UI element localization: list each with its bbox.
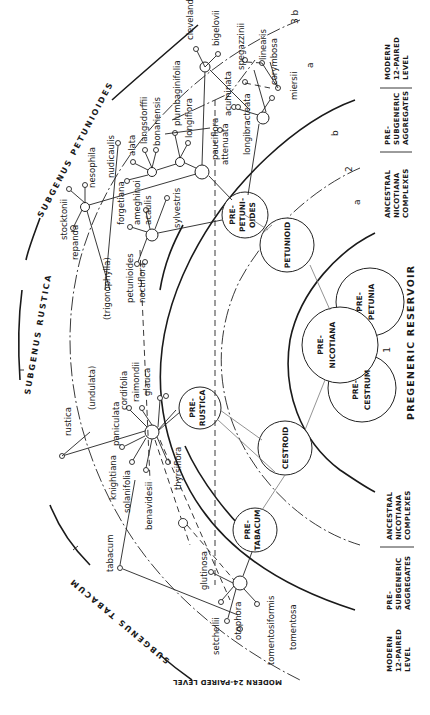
species-benavidesii: benavidesii xyxy=(144,482,154,530)
subgenus-rustica-title: SUBGENUS RUSTICA xyxy=(23,273,53,396)
marker-2: 2 xyxy=(344,166,354,172)
pre-nicotiana-label-1: PRE- xyxy=(316,335,325,355)
species-forgetiana: forgetiana xyxy=(116,181,126,225)
species-raimondii: raimondii xyxy=(131,362,141,402)
pre-rustica-label-2: RUSTICA xyxy=(198,390,207,427)
level-presub-1: PRE- xyxy=(384,126,392,145)
level-modern24-title: MODERN 24-PAIRED LEVEL xyxy=(173,678,282,686)
species-undulata: (undulata) xyxy=(87,366,97,410)
species-linearis: linearis xyxy=(258,29,268,60)
level-modern12-bottom-2: 12-PAIRED xyxy=(395,629,403,672)
pre-petunia-label-2: PETUNIA xyxy=(367,283,376,320)
marker-3b: 3 b xyxy=(290,9,300,24)
species-setchellii: setchellii xyxy=(211,617,221,655)
pre-tabacum-label-1: PRE- xyxy=(243,520,252,540)
marker-a-outer: a xyxy=(305,62,315,68)
species-plumbaginifolia: plumbaginifolia xyxy=(172,60,182,126)
pre-nicotiana-label-2: NICOTIANA xyxy=(328,321,337,368)
species-repanda: repanda xyxy=(70,225,80,260)
cestroid-label: CESTROID xyxy=(281,427,290,469)
species-stocktonii: stocktonii xyxy=(59,199,69,240)
level-modern12-bottom-1: MODERN xyxy=(386,636,394,672)
hub-longiflora xyxy=(176,158,185,167)
species-rustica: rustica xyxy=(63,407,73,436)
marker-b-mid: b xyxy=(330,130,340,136)
species-langsdorffii: langsdorffii xyxy=(139,97,149,144)
species-trigonophylla: (trigonophylla) xyxy=(102,257,112,320)
pre-petunioides-label-1: PRE- xyxy=(228,205,237,225)
pre-petunia-label-1: PRE- xyxy=(355,292,364,312)
species-glutinosa: glutinosa xyxy=(199,551,209,590)
hub-rustica xyxy=(145,425,159,439)
pre-cestrum-label-1: PRE- xyxy=(351,380,360,400)
nicotiana-phylogeny-diagram: PRE- NICOTIANA PRE- PETUNIA PRE- CESTRUM… xyxy=(0,0,430,715)
species-corymbosa: corymbosa xyxy=(269,38,279,85)
species-acaulis: acaulis xyxy=(143,195,153,225)
species-bonariensis: bonariensis xyxy=(152,97,162,146)
level-presub-bottom-1: PRE- xyxy=(386,591,394,610)
pre-tabacum-label-2: TABACUM xyxy=(253,510,262,551)
pregeneric-reservoir-title: PREGENERIC RESERVOIR xyxy=(405,265,416,420)
pre-rustica-label-1: PRE- xyxy=(188,398,197,418)
hub-tabacum xyxy=(233,576,247,590)
level-presub-bottom-3: AGGREGATES xyxy=(404,556,412,610)
level-ancestral-bottom-3: COMPLEXES xyxy=(404,491,412,540)
species-spegazzinii: spegazzinii xyxy=(236,23,246,70)
species-tomentosiformis: tomentosiformis xyxy=(266,595,276,665)
hub-petunioides-main xyxy=(195,165,209,179)
species-thyrsiflora: thyrsiflora xyxy=(173,447,183,490)
arc-subgenus-tabacum xyxy=(50,505,90,565)
species-attenuata: attenuata xyxy=(220,123,230,165)
pre-petunioides-label-3: OIDES xyxy=(248,202,257,228)
species-petunioides: petunioides xyxy=(125,253,135,303)
species-miersii: miersii xyxy=(289,71,299,100)
level-labels-top: MODERN 12-PAIRED LEVEL PRE- SUBGENERIC A… xyxy=(380,37,412,218)
arc-inner-segment-1 xyxy=(160,225,183,290)
species-tomentosa: tomentosa xyxy=(288,604,298,650)
level-modern12-1: MODERN xyxy=(384,44,392,80)
species-cordifolia: cordifolia xyxy=(119,371,129,410)
species-nudicaulis: nudicaulis xyxy=(106,134,116,178)
marker-1: 1 xyxy=(382,347,392,353)
species-noctiflora: noctiflora xyxy=(137,263,147,303)
species-glauca: glauca xyxy=(142,368,152,396)
level-modern12-3: LEVEL xyxy=(402,55,410,80)
species-clevelandii: clevelandii xyxy=(185,0,195,40)
hub-langsdorffii xyxy=(148,168,157,177)
level-ancestral-bottom-2: NICOTIANA xyxy=(395,494,403,540)
level-ancestral-1: ANCESTRAL xyxy=(384,170,392,218)
petunioid-label: PETUNIOID xyxy=(283,222,292,268)
species-solanifolia: solanifolia xyxy=(122,470,132,513)
species-alata: alata xyxy=(127,135,137,156)
marker-a-inner: a xyxy=(352,199,362,205)
level-presub-bottom-2: SUBGENERIC xyxy=(395,558,403,610)
arc-subgenus-petunioides-tail xyxy=(26,218,40,260)
level-labels-bottom: ANCESTRAL NICOTIANA COMPLEXES PRE- SUBGE… xyxy=(380,491,414,672)
level-presub-2: SUBGENERIC xyxy=(393,93,401,145)
species-bigelovii: bigelovii xyxy=(211,10,221,46)
level-ancestral-3: COMPLEXES xyxy=(402,169,410,218)
subgenus-tabacum-title: SUBGENUS TABACUM xyxy=(68,576,172,665)
level-presub-3: AGGREGATES xyxy=(402,91,410,145)
species-tabacum: tabacum xyxy=(105,535,115,573)
species-knightiana: knightiana xyxy=(108,455,118,500)
species-ameghinoi: ameghinoi xyxy=(132,180,142,225)
species-longiflora: longiflora xyxy=(184,98,194,138)
species-sylvestris: sylvestris xyxy=(172,187,182,228)
species-acuminata: acuminata xyxy=(223,71,233,116)
hub-acaulis xyxy=(146,229,158,241)
species-otophora: otophora xyxy=(233,602,243,640)
level-ancestral-2: NICOTIANA xyxy=(393,172,401,218)
level-modern12-bottom-3: LEVEL xyxy=(404,647,412,672)
arc-subgenus-rustica xyxy=(19,290,22,380)
level-modern12-2: 12-PAIRED xyxy=(393,37,401,80)
species-pauciflora: pauciflora xyxy=(210,118,220,160)
level-ancestral-bottom-1: ANCESTRAL xyxy=(386,492,394,540)
species-nesophila: nesophila xyxy=(87,147,97,188)
subgenus-petunioides-title: SUBGENUS PETUNIOIDES xyxy=(36,80,116,219)
pre-cestrum-label-2: CESTRUM xyxy=(363,370,372,410)
species-longibracteata: longibracteata xyxy=(242,93,252,155)
hub-acuminata xyxy=(257,112,269,124)
